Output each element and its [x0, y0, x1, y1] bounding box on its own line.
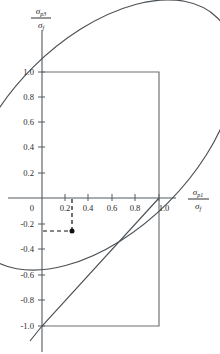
y-tick-label: -0.8 — [20, 295, 34, 305]
x-tick-label: 0.6 — [107, 203, 118, 213]
origin-label: 0 — [30, 203, 34, 213]
y-tick-label: 1.0 — [23, 67, 34, 77]
operating-point-marker — [70, 229, 75, 234]
y-tick-label: 0.6 — [23, 117, 34, 127]
y-axis-numerator: σp3 — [36, 6, 46, 17]
y-tick-label: 0.4 — [23, 142, 34, 152]
y-axis-label: σp3 σf — [31, 6, 51, 31]
x-tick-label: 1.0 — [159, 203, 170, 213]
x-axis-denominator: σf — [195, 201, 202, 212]
tresca-hexagon-curve — [42, 72, 159, 326]
x-tick-label: 0.8 — [130, 203, 141, 213]
y-axis-denominator: σf — [38, 20, 45, 31]
y-axis-tick-labels: 1.0 0.8 0.6 0.4 0.2 -0.2 -0.4 -0.6 -0.8 … — [20, 67, 34, 331]
plot-root: 1.0 0.8 0.6 0.4 0.2 -0.2 -0.4 -0.6 -0.8 … — [0, 0, 220, 354]
x-tick-label: 0.4 — [83, 203, 94, 213]
y-tick-label: -0.6 — [20, 270, 34, 280]
x-tick-label: 0.2 — [60, 203, 71, 213]
y-tick-label: -0.2 — [20, 219, 34, 229]
x-axis-numerator: σp1 — [193, 187, 203, 198]
y-tick-label: -0.4 — [20, 244, 34, 254]
x-axis-label: σp1 σf — [188, 187, 209, 212]
y-tick-label: -1.0 — [20, 321, 34, 331]
y-tick-label: 0.2 — [23, 168, 34, 178]
plot-svg: 1.0 0.8 0.6 0.4 0.2 -0.2 -0.4 -0.6 -0.8 … — [0, 0, 220, 354]
y-tick-label: 0.8 — [23, 92, 34, 102]
